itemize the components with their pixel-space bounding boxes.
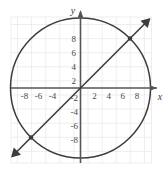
- y-tick-label-2: 2: [72, 76, 77, 86]
- y-tick-label-6: 6: [72, 48, 77, 58]
- y-tick-label-neg4: -4: [71, 107, 79, 117]
- x-tick-label-neg6: -6: [35, 91, 43, 101]
- y-tick-label-neg8: -8: [71, 135, 79, 145]
- x-tick-label-2: 2: [92, 91, 97, 101]
- intersection-point-lower-left: [29, 135, 33, 139]
- x-tick-label-4: 4: [106, 91, 111, 101]
- graph-figure: 8 6 4 2 -2 -4 -6 -8 -8 -6 -4 2 4 6 8 y x: [0, 0, 167, 172]
- y-tick-label-8: 8: [72, 34, 77, 44]
- x-tick-label-6: 6: [121, 91, 126, 101]
- intersection-point-upper-right: [128, 36, 132, 40]
- coordinate-plane-graph: 8 6 4 2 -2 -4 -6 -8 -8 -6 -4 2 4 6 8 y x: [0, 0, 167, 172]
- x-tick-label-neg8: -8: [21, 91, 29, 101]
- x-tick-label-neg4: -4: [49, 91, 57, 101]
- y-tick-label-neg6: -6: [71, 121, 79, 131]
- y-axis-name-label: y: [70, 5, 76, 16]
- x-axis-name-label: x: [157, 91, 163, 102]
- y-tick-label-4: 4: [72, 62, 77, 72]
- x-tick-label-8: 8: [135, 91, 140, 101]
- y-tick-label-neg2: -2: [71, 93, 79, 103]
